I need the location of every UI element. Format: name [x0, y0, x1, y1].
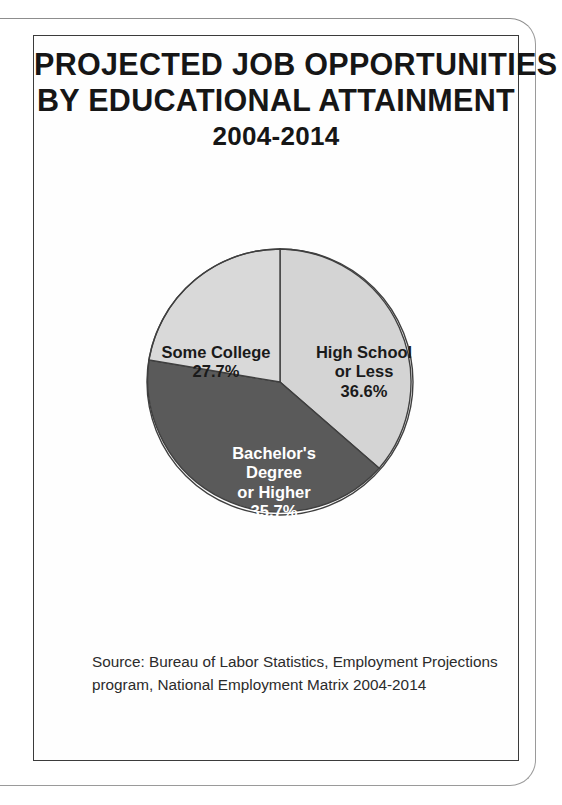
pie-label-some-college-name: Some College	[146, 343, 286, 362]
source-note-line-2: program, National Employment Matrix 2004…	[92, 674, 512, 697]
pie-label-some-college: Some College 27.7%	[146, 343, 286, 382]
pie-label-bachelors-value: 35.7%	[204, 502, 344, 521]
pie-label-bachelors-name-2: Degree	[204, 463, 344, 482]
source-note: Source: Bureau of Labor Statistics, Empl…	[92, 651, 512, 697]
pie-label-high-school: High School or Less 36.6%	[298, 343, 430, 401]
page-title: PROJECTED JOB OPPORTUNITIES BY EDUCATION…	[34, 47, 518, 152]
pie-label-bachelors-name-3: or Higher	[204, 483, 344, 502]
pie-label-high-school-name-2: or Less	[298, 362, 430, 381]
source-note-line-1: Source: Bureau of Labor Statistics, Empl…	[92, 651, 512, 674]
pie-label-bachelors-name-1: Bachelor's	[204, 444, 344, 463]
pie-label-bachelors: Bachelor's Degree or Higher 35.7%	[204, 444, 344, 521]
title-line-1: PROJECTED JOB OPPORTUNITIES	[34, 47, 518, 83]
pie-label-high-school-value: 36.6%	[298, 382, 430, 401]
pie-label-some-college-value: 27.7%	[146, 362, 286, 381]
title-line-2: BY EDUCATIONAL ATTAINMENT	[34, 83, 518, 119]
printed-frame-box: PROJECTED JOB OPPORTUNITIES BY EDUCATION…	[33, 35, 519, 761]
page-edge-margin	[536, 0, 562, 805]
pie-label-high-school-name-1: High School	[298, 343, 430, 362]
title-line-3: 2004-2014	[34, 121, 518, 152]
pie-chart: Some College 27.7% High School or Less 3…	[146, 248, 414, 516]
